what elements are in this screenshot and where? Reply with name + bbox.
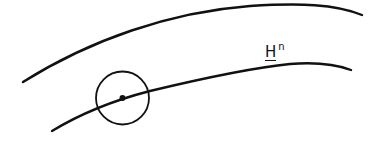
center-point [120,95,126,101]
upper-boundary-curve [23,5,362,82]
diagram-canvas: Hn [0,0,382,146]
hypersurface-label: Hn [265,44,283,61]
label-main: H [265,45,276,61]
label-superscript: n [278,41,284,52]
